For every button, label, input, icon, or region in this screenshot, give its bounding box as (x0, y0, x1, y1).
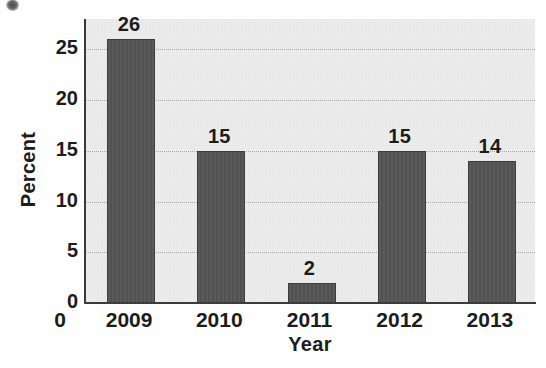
bar-value-label-2012: 15 (360, 125, 440, 148)
bar-chart-figure: 261521514 0510152025 2009201020112012201… (0, 0, 546, 368)
bar-texture (469, 162, 515, 302)
bar-value-label-2010: 15 (179, 125, 259, 148)
bar-texture (198, 152, 244, 302)
bar-texture (379, 152, 425, 302)
bar-2009[interactable] (107, 39, 155, 303)
bar-value-label-2009: 26 (89, 13, 169, 36)
bar-2011[interactable] (288, 283, 336, 303)
bar-value-label-2011: 2 (270, 257, 350, 280)
y-tick-label-15: 15 (38, 138, 78, 161)
y-tick-label-20: 20 (38, 87, 78, 110)
y-tick-label-5: 5 (38, 239, 78, 262)
bar-2013[interactable] (468, 161, 516, 303)
scan-smudge-artifact (6, 0, 19, 11)
x-tick-label-2013: 2013 (440, 308, 540, 332)
y-tick-label-10: 10 (38, 189, 78, 212)
y-axis-title: Percent (17, 120, 40, 220)
bar-value-label-2013: 14 (450, 135, 530, 158)
origin-zero-label: 0 (40, 308, 80, 332)
bar-texture (108, 40, 154, 302)
x-tick-label-2009: 2009 (79, 308, 179, 332)
x-tick-label-2012: 2012 (350, 308, 450, 332)
x-tick-label-2010: 2010 (169, 308, 269, 332)
bar-2010[interactable] (197, 151, 245, 303)
x-tick-label-2011: 2011 (260, 308, 360, 332)
x-axis-line (84, 302, 536, 304)
y-tick-label-25: 25 (38, 36, 78, 59)
bar-2012[interactable] (378, 151, 426, 303)
x-axis-title: Year (84, 333, 536, 356)
bar-texture (289, 284, 335, 302)
